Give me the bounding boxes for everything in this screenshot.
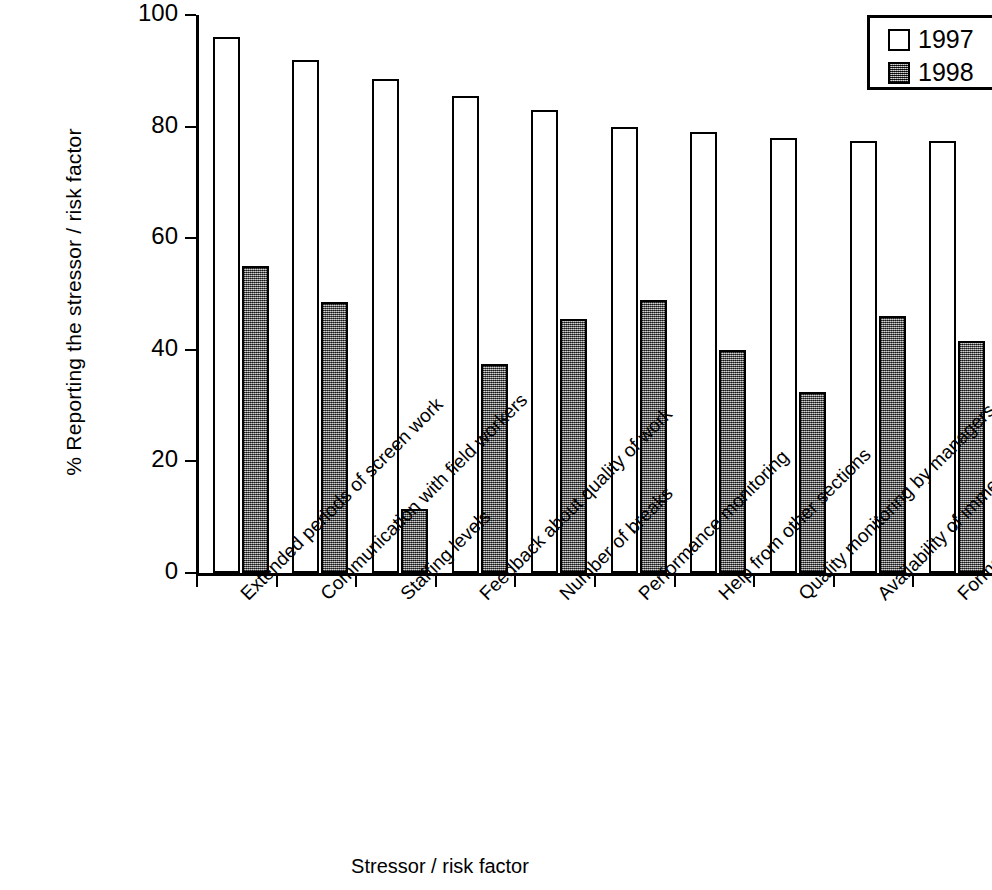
bar-1998[interactable] — [560, 319, 587, 573]
bar-group — [435, 12, 515, 573]
bar-1998[interactable] — [481, 364, 508, 573]
y-axis-tick-label: 0 — [165, 559, 178, 583]
bar-1997[interactable] — [850, 141, 877, 573]
bar-1997[interactable] — [770, 138, 797, 573]
y-axis-tick: 20 — [185, 460, 196, 462]
legend-swatch-1997-icon — [888, 29, 910, 51]
bar-chart: % Reporting the stressor / risk factor 0… — [0, 0, 992, 890]
y-axis-tick-label: 100 — [138, 1, 178, 25]
legend: 1997 1998 — [867, 15, 992, 90]
legend-label-1997: 1997 — [918, 27, 974, 52]
y-axis-tick: 0 — [185, 572, 196, 574]
legend-item-1997[interactable]: 1997 — [888, 23, 992, 56]
bar-group — [196, 12, 276, 573]
bar-1998[interactable] — [958, 341, 985, 573]
y-axis-tick: 40 — [185, 349, 196, 351]
bar-1997[interactable] — [372, 79, 399, 573]
y-axis-tick-label: 80 — [151, 113, 178, 137]
y-axis-tick: 100 — [185, 14, 196, 16]
bar-1997[interactable] — [213, 37, 240, 573]
y-axis-tick-label: 20 — [151, 447, 178, 471]
y-axis-tick-label: 40 — [151, 336, 178, 360]
legend-item-1998[interactable]: 1998 — [888, 56, 992, 89]
bar-1997[interactable] — [929, 141, 956, 573]
x-axis-tick — [196, 576, 198, 587]
y-axis-tick-label: 60 — [151, 224, 178, 248]
y-axis-tick: 80 — [185, 126, 196, 128]
legend-swatch-1998-icon — [888, 62, 910, 84]
bar-1997[interactable] — [611, 127, 638, 573]
bar-1997[interactable] — [292, 60, 319, 573]
y-axis-tick: 60 — [185, 237, 196, 239]
bar-1997[interactable] — [452, 96, 479, 573]
bar-1998[interactable] — [879, 316, 906, 573]
y-axis-title: % Reporting the stressor / risk factor — [62, 22, 86, 582]
bar-1997[interactable] — [690, 132, 717, 573]
bar-1998[interactable] — [719, 350, 746, 573]
bar-1998[interactable] — [242, 266, 269, 573]
x-axis-title: Stressor / risk factor — [0, 855, 880, 878]
bar-1997[interactable] — [531, 110, 558, 573]
legend-label-1998: 1998 — [918, 60, 974, 85]
bar-1998[interactable] — [321, 302, 348, 573]
